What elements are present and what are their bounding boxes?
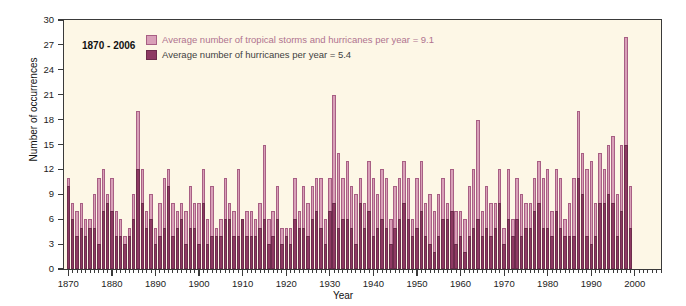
x-axis-minor-tick (120, 269, 121, 273)
x-axis-minor-tick (565, 269, 566, 273)
x-axis-minor-tick (98, 269, 99, 273)
bar-group (502, 20, 505, 269)
x-axis-minor-tick (290, 269, 291, 273)
bar-group (106, 20, 109, 269)
bar-group (598, 20, 601, 269)
bar-group (624, 20, 627, 269)
bar-segment-hurricanes (393, 228, 396, 270)
x-axis-minor-tick (617, 269, 618, 273)
x-axis-minor-tick (434, 269, 435, 273)
y-axis-tick-label: 27 (0, 40, 54, 49)
bar-segment-hurricanes (245, 236, 248, 269)
x-axis-minor-tick (491, 269, 492, 273)
bar-segment-hurricanes (520, 236, 523, 269)
x-axis-minor-tick (268, 269, 269, 273)
bar-segment-hurricanes (71, 219, 74, 269)
bar-group (507, 20, 510, 269)
bar-segment-hurricanes (481, 236, 484, 269)
x-axis-minor-tick (146, 269, 147, 273)
bar-group (141, 20, 144, 269)
bar-segment-hurricanes (145, 228, 148, 270)
x-axis-minor-tick (133, 269, 134, 273)
bar-segment-hurricanes (424, 236, 427, 269)
bar-segment-hurricanes (420, 211, 423, 269)
bar-segment-hurricanes (372, 236, 375, 269)
bar-segment-hurricanes (346, 219, 349, 269)
x-axis-minor-tick (608, 269, 609, 273)
bar-segment-hurricanes (572, 236, 575, 269)
x-axis-minor-tick (599, 269, 600, 273)
bar-segment-hurricanes (454, 244, 457, 269)
bar-segment-hurricanes (202, 203, 205, 269)
x-axis-minor-tick (316, 269, 317, 273)
x-axis-minor-tick (338, 269, 339, 273)
bar-segment-hurricanes (302, 228, 305, 270)
bar-segment-hurricanes (550, 236, 553, 269)
bar-group (485, 20, 488, 269)
bar-group (97, 20, 100, 269)
x-axis-minor-tick (403, 269, 404, 273)
bar-segment-hurricanes (197, 244, 200, 269)
bar-group (537, 20, 540, 269)
bar-segment-hurricanes (511, 236, 514, 269)
bar-group (446, 20, 449, 269)
bar-segment-hurricanes (93, 228, 96, 270)
bar-segment-hurricanes (402, 203, 405, 269)
x-axis-minor-tick (303, 269, 304, 273)
bar-segment-hurricanes (380, 219, 383, 269)
bar-segment-hurricanes (367, 211, 370, 269)
x-axis-minor-tick (639, 269, 640, 273)
bar-segment-hurricanes (629, 228, 632, 270)
x-axis-minor-tick (347, 269, 348, 273)
bar-segment-hurricanes (446, 219, 449, 269)
x-axis-minor-tick (656, 269, 657, 273)
bar-group (494, 20, 497, 269)
bar-segment-hurricanes (577, 178, 580, 269)
bar-segment-hurricanes (585, 236, 588, 269)
bar-segment-hurricanes (507, 219, 510, 269)
x-axis-tick-label: 1950 (406, 278, 427, 289)
x-axis-title: Year (0, 290, 686, 301)
x-axis-major-tick (198, 269, 199, 276)
bar-segment-hurricanes (555, 211, 558, 269)
bar-group (520, 20, 523, 269)
bar-segment-hurricanes (97, 244, 100, 269)
x-axis-tick-label: 1970 (494, 278, 515, 289)
x-axis-minor-tick (477, 269, 478, 273)
x-axis-minor-tick (578, 269, 579, 273)
bar-group (454, 20, 457, 269)
bar-segment-hurricanes (149, 219, 152, 269)
bar-segment-hurricanes (324, 244, 327, 269)
bar-segment-hurricanes (494, 228, 497, 270)
bar-segment-hurricanes (598, 203, 601, 269)
bar-segment-hurricanes (463, 252, 466, 269)
x-axis-minor-tick (364, 269, 365, 273)
bar-segment-hurricanes (363, 228, 366, 270)
x-axis-minor-tick (443, 269, 444, 273)
x-axis-minor-tick (164, 269, 165, 273)
bar-segment-hurricanes (88, 228, 91, 270)
bar-segment-hurricanes (603, 203, 606, 269)
x-axis-tick-label: 1960 (450, 278, 471, 289)
x-axis-minor-tick (181, 269, 182, 273)
x-axis-minor-tick (142, 269, 143, 273)
x-axis-minor-tick (430, 269, 431, 273)
bar-segment-hurricanes (219, 236, 222, 269)
bar-segment-hurricanes (450, 211, 453, 269)
y-axis-tick-label: 6 (0, 214, 54, 223)
bar-segment-hurricanes (311, 219, 314, 269)
x-axis-major-tick (634, 269, 635, 276)
bar-segment-hurricanes (237, 236, 240, 269)
bar-segment-hurricanes (154, 244, 157, 269)
bar-segment-hurricanes (193, 228, 196, 270)
x-axis-minor-tick (72, 269, 73, 273)
x-axis-minor-tick (342, 269, 343, 273)
x-axis-minor-tick (203, 269, 204, 273)
y-axis-tick-label: 9 (0, 189, 54, 198)
bar-segment-hurricanes (158, 236, 161, 269)
bar-group (603, 20, 606, 269)
bar-segment-hurricanes (611, 203, 614, 269)
bar-segment-hurricanes (163, 228, 166, 270)
bar-segment-hurricanes (110, 211, 113, 269)
x-axis-minor-tick (151, 269, 152, 273)
